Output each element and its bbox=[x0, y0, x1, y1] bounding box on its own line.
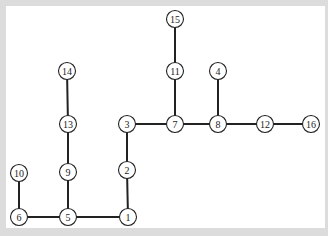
node-12: 12 bbox=[257, 116, 274, 133]
node-label: 12 bbox=[260, 119, 270, 130]
node-11: 11 bbox=[167, 63, 184, 80]
node-label: 7 bbox=[173, 119, 178, 130]
node-3: 3 bbox=[119, 116, 136, 133]
node-label: 5 bbox=[66, 212, 71, 223]
node-label: 11 bbox=[170, 66, 180, 77]
node-1: 1 bbox=[120, 209, 137, 226]
node-label: 2 bbox=[125, 165, 130, 176]
tree-diagram: 12345678910111213141516 bbox=[0, 0, 328, 236]
node-label: 10 bbox=[14, 168, 24, 179]
node-label: 3 bbox=[125, 119, 130, 130]
node-16: 16 bbox=[303, 116, 320, 133]
node-7: 7 bbox=[167, 116, 184, 133]
nodes: 12345678910111213141516 bbox=[11, 11, 320, 226]
node-label: 15 bbox=[170, 14, 180, 25]
node-label: 14 bbox=[62, 66, 72, 77]
node-label: 16 bbox=[306, 119, 316, 130]
node-9: 9 bbox=[60, 164, 77, 181]
node-15: 15 bbox=[167, 11, 184, 28]
node-10: 10 bbox=[11, 165, 28, 182]
node-2: 2 bbox=[119, 162, 136, 179]
node-label: 8 bbox=[216, 119, 221, 130]
node-label: 1 bbox=[126, 212, 131, 223]
node-6: 6 bbox=[11, 209, 28, 226]
node-5: 5 bbox=[60, 209, 77, 226]
node-label: 9 bbox=[66, 167, 71, 178]
node-8: 8 bbox=[210, 116, 227, 133]
node-label: 13 bbox=[63, 119, 73, 130]
node-4: 4 bbox=[210, 63, 227, 80]
node-label: 6 bbox=[17, 212, 22, 223]
node-14: 14 bbox=[59, 63, 76, 80]
node-label: 4 bbox=[216, 66, 221, 77]
node-13: 13 bbox=[60, 116, 77, 133]
